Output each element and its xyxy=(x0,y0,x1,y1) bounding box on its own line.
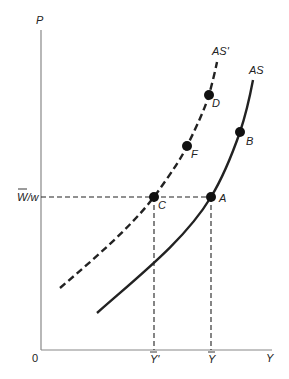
point-a xyxy=(206,192,216,202)
point-d-label: D xyxy=(212,97,220,109)
origin-label: 0 xyxy=(32,352,38,364)
y-bar-tick-label: Y xyxy=(208,353,216,365)
point-a-label: A xyxy=(218,192,226,204)
point-c-label: C xyxy=(158,199,166,211)
point-b-label: B xyxy=(246,135,253,147)
wage-tick-label: W/w xyxy=(17,191,39,203)
y-prime-tick-label: Y' xyxy=(150,353,160,365)
as-curve xyxy=(97,80,253,313)
x-axis-label: Y xyxy=(266,352,274,364)
y-axis-label: P xyxy=(36,14,44,26)
point-f-label: F xyxy=(191,148,199,160)
as-curve-label: AS xyxy=(248,64,264,76)
as-prime-curve-label: AS' xyxy=(211,45,230,57)
point-b xyxy=(235,127,245,137)
as-prime-curve xyxy=(60,62,217,288)
as-diagram: P 0 Y W/w Y' Y AS' AS A B C D F xyxy=(0,0,289,379)
